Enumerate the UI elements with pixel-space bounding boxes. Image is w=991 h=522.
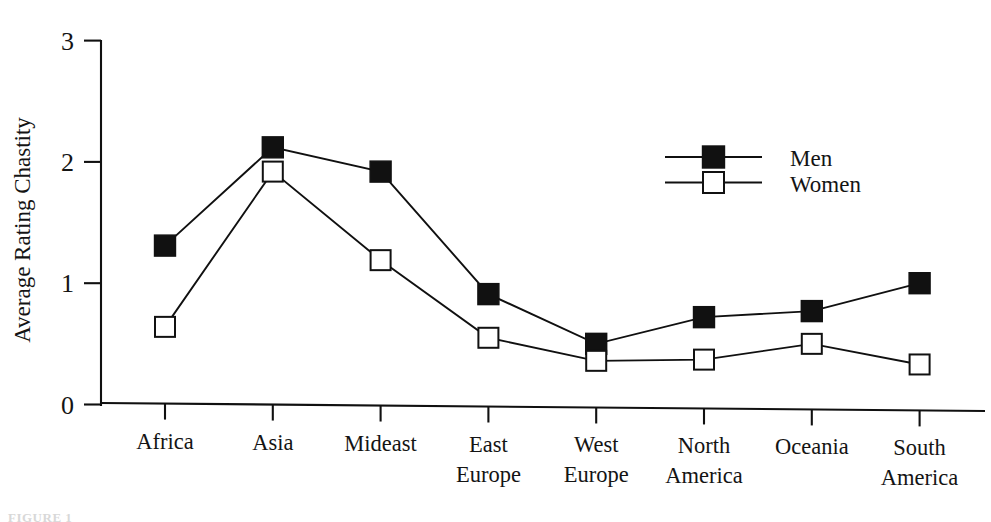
data-point-marker [478,328,498,348]
x-tick-label: South [893,435,946,460]
data-point-marker [262,137,283,158]
data-point-marker [802,334,822,354]
data-point-marker [371,250,391,270]
y-tick-label: 1 [61,269,74,298]
x-tick-label: West [574,432,619,457]
data-point-marker [910,354,930,374]
y-tick-label: 2 [61,148,74,177]
legend-label: Men [790,146,833,171]
figure-caption-ghost: FIGURE 1 [8,510,72,522]
line-chart: Average Rating Chastity 0123 AfricaAsiaM… [0,0,991,522]
data-point-marker [801,301,822,322]
data-point-marker [909,273,930,294]
x-tick-label: North [678,433,731,458]
y-axis-ticks: 0123 [61,27,101,420]
legend-label: Women [790,172,861,197]
legend-item-men[interactable]: Men [665,146,833,171]
x-tick-label: Europe [456,462,521,487]
x-tick-label: Europe [564,462,629,487]
x-tick-label: East [469,432,508,457]
x-tick-label: Mideast [344,431,417,456]
x-tick-label: Africa [136,429,193,454]
axes [101,40,985,411]
data-point-marker [155,235,176,256]
y-axis-title-label: Average Rating Chastity [10,117,35,343]
data-point-marker [694,307,715,328]
data-point-marker [694,350,714,370]
legend-marker [703,146,725,168]
data-point-marker [155,317,175,337]
x-tick-label: Oceania [775,434,849,459]
data-point-marker [586,351,606,371]
data-point-marker [370,161,391,182]
x-axis-line [101,403,985,411]
x-tick-label: America [881,465,958,490]
y-tick-label: 3 [61,27,74,56]
data-point-marker [478,284,499,305]
chart-legend: MenWomen [665,146,861,197]
y-tick-label: 0 [61,391,74,420]
figure-container: Average Rating Chastity 0123 AfricaAsiaM… [0,0,991,522]
x-tick-label: America [665,463,742,488]
legend-marker [703,172,724,193]
y-axis-title: Average Rating Chastity [10,117,35,343]
x-axis-tick-labels: AfricaAsiaMideastEastEuropeWestEuropeNor… [136,429,958,491]
legend-item-women[interactable]: Women [665,172,861,197]
x-tick-label: Asia [252,430,293,455]
data-point-marker [263,162,283,182]
